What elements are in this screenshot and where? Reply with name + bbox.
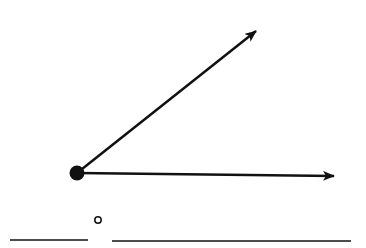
upper-ray	[77, 31, 256, 173]
lower-ray	[77, 173, 334, 176]
angle-diagram	[0, 0, 366, 248]
degree-symbol	[95, 217, 101, 223]
vertex-point	[70, 166, 85, 181]
